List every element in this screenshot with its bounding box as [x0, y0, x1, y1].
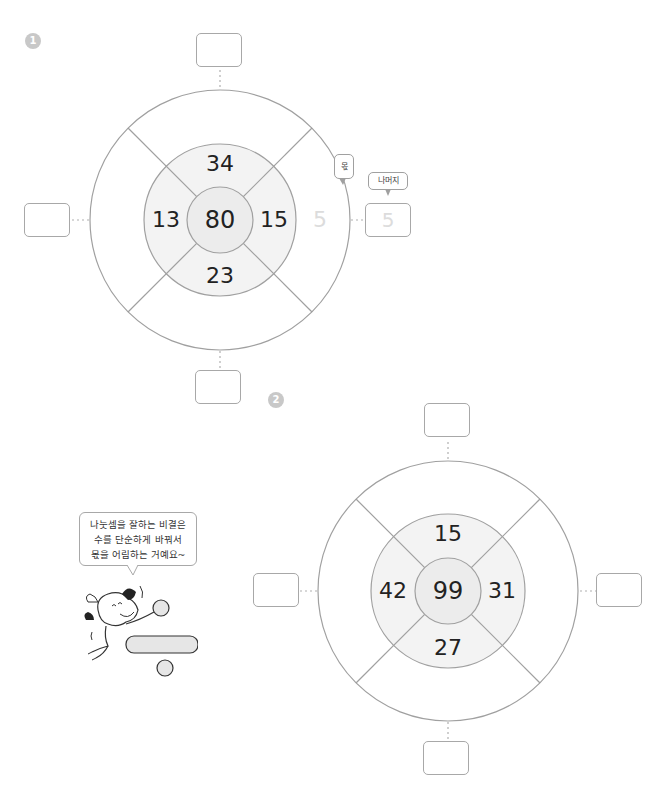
wheel-1-top-divisor: 34: [196, 150, 244, 178]
tip-bubble-tail: [126, 565, 140, 577]
tip-line-2: 수를 단순하게 바꿔서: [80, 532, 196, 547]
problem-number-badge-2: 2: [268, 392, 284, 408]
wheel-2-answer-bottom[interactable]: [423, 741, 469, 775]
division-dot-bottom-icon: [157, 660, 173, 676]
dog-division-illustration: [78, 580, 198, 680]
tip-line-3: 몫을 어림하는 거예요~: [80, 547, 196, 562]
remainder-label-bubble: 나머지: [368, 172, 408, 190]
wheel-1-answer-left[interactable]: [24, 203, 70, 237]
quotient-label-bubble: 몫: [334, 154, 354, 179]
division-dot-top-icon: [153, 600, 169, 616]
wheel-2-bottom-divisor: 27: [424, 634, 472, 662]
wheel-1-center-value: 80: [196, 205, 244, 235]
tip-line-1: 나눗셈을 잘하는 비결은: [80, 517, 196, 532]
tip-speech-bubble: 나눗셈을 잘하는 비결은 수를 단순하게 바꿔서 몫을 어림하는 거예요~: [79, 512, 197, 566]
wheel-1-answer-right[interactable]: 5: [365, 203, 411, 237]
wheel-2-top-divisor: 15: [424, 520, 472, 548]
wheel-1-answer-top[interactable]: [196, 33, 242, 67]
wheel-1-left-divisor: 13: [144, 206, 188, 234]
bubble-tail: [339, 178, 346, 185]
wheel-1-right-divisor: 15: [252, 206, 296, 234]
bubble-tail: [385, 189, 391, 196]
wheel-2-left-divisor: 42: [371, 577, 415, 605]
wheel-2-center-value: 99: [424, 576, 472, 606]
remainder-label: 나머지: [369, 173, 407, 189]
wheel-1-answer-bottom[interactable]: [195, 370, 241, 404]
division-bar-icon: [126, 636, 198, 653]
wheel-2-answer-left[interactable]: [253, 573, 299, 607]
wheel-2-answer-top[interactable]: [424, 403, 470, 437]
quotient-label: 몫: [335, 155, 353, 178]
wheel-1-example-quotient: 5: [306, 206, 334, 234]
division-wheel-1: [0, 0, 668, 802]
wheel-2-answer-right[interactable]: [596, 573, 642, 607]
wheel-2-right-divisor: 31: [480, 577, 524, 605]
wheel-1-bottom-divisor: 23: [196, 262, 244, 290]
